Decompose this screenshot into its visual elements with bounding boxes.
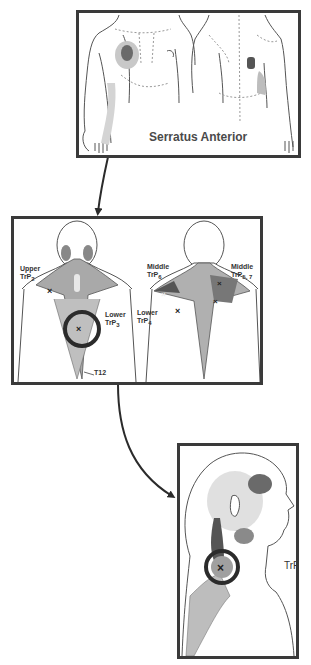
svg-text:×: × — [213, 297, 218, 306]
label-middle-trp5-7: Middle TrP5, 7 — [231, 263, 253, 281]
neck-profile-panel: × TrP1 — [177, 443, 299, 659]
trapezius-figure: × × × × × × — [14, 219, 260, 382]
svg-text:×: × — [217, 279, 222, 288]
arrow-serratus-to-trapezius — [98, 157, 108, 212]
arrow-trapezius-to-neck — [118, 384, 172, 496]
svg-text:×: × — [217, 561, 224, 575]
label-lower-trp3: Lower TrP3 — [105, 311, 126, 329]
serratus-anterior-caption: Serratus Anterior — [149, 130, 247, 144]
label-middle-trp6: Middle TrP6 — [147, 263, 169, 281]
neck-profile-figure: × — [180, 446, 296, 656]
label-t12: T12 — [94, 369, 106, 377]
label-trp1: TrP1 — [284, 560, 299, 575]
label-lower-trp4: Lower TrP4 — [137, 309, 158, 327]
serratus-anterior-panel: Serratus Anterior — [76, 10, 301, 158]
label-upper-trp2: Upper TrP2 — [20, 265, 40, 283]
svg-text:×: × — [47, 286, 52, 296]
svg-text:×: × — [175, 306, 180, 316]
trapezius-panel: × × × × × × Upper TrP2 Lower TrP3 T12 Mi… — [11, 216, 263, 385]
svg-text:×: × — [161, 290, 166, 299]
right-back-illustration: × × × × — [146, 221, 260, 382]
left-back-illustration: × × — [18, 221, 136, 382]
svg-text:×: × — [76, 324, 81, 334]
